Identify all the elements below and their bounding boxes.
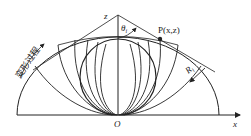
deformation-curves-right (119, 40, 201, 115)
origin-label: O (114, 119, 121, 129)
theta-label: θi (121, 23, 127, 34)
deformation-diagram: z x O θi P(x,z) Ri 变形过程 (0, 0, 251, 136)
x-axis-label: x (232, 119, 237, 129)
point-p (158, 37, 162, 41)
point-p-label: P(x,z) (158, 25, 180, 35)
deformation-curves-left (35, 40, 117, 115)
z-axis-label: z (103, 11, 108, 21)
tangent-line-right (118, 15, 215, 72)
process-label: 变形过程 (13, 44, 43, 80)
